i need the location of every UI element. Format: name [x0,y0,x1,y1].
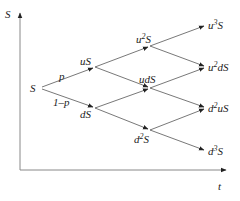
tree-edges [42,26,204,150]
edge-uS-u2S [95,47,148,67]
node-uS: uS [80,55,92,67]
node-u2dS: u2dS [208,60,229,73]
node-udS: udS [139,73,156,85]
tree-nodes: S uS dS u2S udS d2S u3S u2dS d2uS d3S [30,18,229,157]
edge-S-uS [42,68,93,87]
branch-label-down: 1–p [53,96,70,108]
branch-labels: p 1–p [53,70,70,108]
edge-udS-d2uS [150,88,204,107]
node-u3S: u3S [208,18,224,31]
edge-d2S-d3S [150,130,204,150]
x-axis-label: t [218,180,222,192]
node-u2S: u2S [136,32,152,45]
y-axis-label: S [5,8,11,20]
edge-u2S-u3S [150,26,204,46]
branch-label-up: p [58,70,65,82]
binomial-tree-diagram: S t p 1–p S uS dS u2S udS [0,0,240,201]
node-d2S: d2S [134,132,150,145]
node-S: S [30,82,36,94]
edge-udS-u2dS [150,68,204,88]
edge-d2S-d2uS [150,109,204,130]
edge-dS-udS [95,89,148,108]
node-d3S: d3S [208,144,224,157]
axes: S t [5,8,226,192]
edge-dS-d2S [95,108,148,129]
node-dS: dS [80,108,92,120]
edge-u2S-u2dS [150,46,204,66]
node-d2uS: d2uS [208,101,229,114]
